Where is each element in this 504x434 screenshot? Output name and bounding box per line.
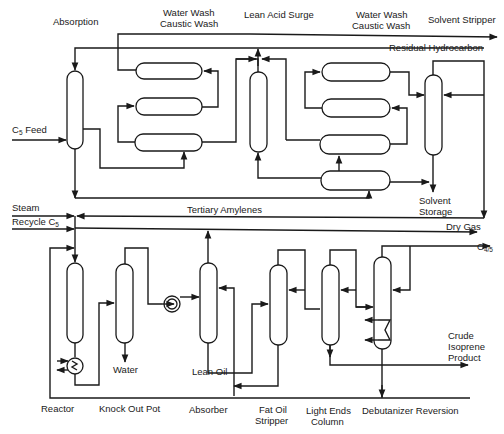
- label-knock-out-pot: Knock Out Pot: [99, 403, 161, 414]
- wash2-link-c: [390, 108, 407, 144]
- reactor-vessel: [67, 263, 83, 343]
- wash-drum-1c: [135, 134, 202, 151]
- wash-drum-2c: [320, 135, 390, 154]
- absorber-vessel: [200, 263, 217, 343]
- wash-drum-2d: [321, 171, 390, 190]
- top-section: Absorption Water Wash Caustic Wash Lean …: [12, 7, 497, 218]
- label-steam: Steam: [12, 202, 40, 213]
- debutanizer-vessel: [374, 257, 391, 349]
- wash-drum-1a: [136, 63, 202, 79]
- wash-drum-2a: [322, 63, 390, 81]
- label-fat-oil-2: Stripper: [255, 415, 288, 426]
- label-light-ends-1: Light Ends: [306, 405, 351, 416]
- label-c45: C4/5: [477, 241, 493, 253]
- label-light-ends-2: Column: [311, 416, 344, 427]
- wash2-to-stripper: [390, 72, 424, 95]
- label-water-wash-2a: Water Wash: [356, 9, 408, 20]
- knock-out-pot-vessel: [116, 264, 133, 343]
- process-flow-diagram: Absorption Water Wash Caustic Wash Lean …: [0, 0, 504, 434]
- label-water: Water: [113, 364, 138, 375]
- fat-oil-bottom-out: [234, 345, 278, 386]
- solvent-stripper-column: [425, 75, 442, 155]
- wash1-link-c: [118, 106, 135, 142]
- label-dry-gas: Dry Gas: [446, 221, 481, 232]
- label-solvent-storage-1: Solvent: [419, 195, 451, 206]
- label-solvent-stripper: Solvent Stripper: [428, 14, 496, 25]
- label-crude-1: Crude: [448, 330, 474, 341]
- label-water-wash-1a: Water Wash: [163, 7, 215, 18]
- label-absorber: Absorber: [189, 404, 228, 415]
- label-water-wash-2b: Caustic Wash: [352, 20, 410, 31]
- wash2-link-b: [305, 72, 322, 108]
- label-recycle-c5: Recycle C5: [12, 216, 59, 228]
- wash-drum-2b: [322, 99, 390, 117]
- tertiary-to-wash2d: [75, 191, 369, 198]
- label-fat-oil-1: Fat Oil: [259, 404, 287, 415]
- label-water-wash-1b: Caustic Wash: [160, 18, 218, 29]
- surge-bottom-return: [258, 153, 322, 178]
- label-reactor: Reactor: [41, 403, 74, 414]
- label-crude-3: Product: [448, 352, 481, 363]
- absorption-column: [67, 71, 83, 149]
- label-debutanizer: Debutanizer Reversion: [362, 405, 459, 416]
- label-tertiary-amylenes: Tertiary Amylenes: [187, 204, 262, 215]
- wash1-link-b: [202, 71, 218, 107]
- light-ends-column-vessel: [322, 265, 339, 345]
- reactor-recycle-return: [50, 248, 470, 398]
- debutanizer-top-out: [382, 246, 490, 257]
- fat-oil-stripper-vessel: [270, 265, 287, 345]
- lean-acid-surge-column: [250, 72, 267, 152]
- label-c5-feed: C5 Feed: [12, 124, 47, 136]
- label-absorption: Absorption: [53, 16, 98, 27]
- bottom-section: Steam Recycle C5 Dry Gas C4/5 Water Lean…: [12, 202, 493, 427]
- wash-drum-1b: [136, 98, 202, 115]
- label-crude-2: Isoprene: [448, 341, 485, 352]
- dry-gas-line-main: [75, 228, 477, 232]
- label-lean-acid-surge: Lean Acid Surge: [244, 9, 314, 20]
- lean-oil-return: [219, 288, 234, 396]
- label-solvent-storage-2: Storage: [419, 206, 452, 217]
- label-lean-oil: Lean Oil: [192, 366, 227, 377]
- label-residual-hydrocarbon: Residual Hydrocarbon: [389, 42, 483, 53]
- debutanizer-reflux: [393, 246, 410, 290]
